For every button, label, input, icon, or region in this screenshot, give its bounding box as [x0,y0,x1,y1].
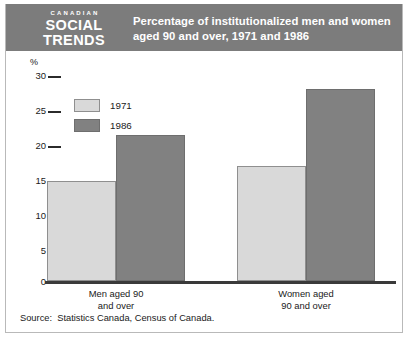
x-axis-baseline [45,281,396,284]
plot-area: % 30 25 20 15 10 5 0 [6,51,402,302]
bar-women-1986 [306,89,375,281]
category-label-men-line1: Men aged 90 [51,288,181,300]
category-label-men: Men aged 90 and over [51,288,181,311]
bar-men-1971 [47,181,116,281]
bar-men-1986 [116,135,185,281]
category-label-women: Women aged 90 and over [241,288,371,311]
chart-title: Percentage of institutionalized men and … [133,14,398,43]
category-label-women-line2: 90 and over [241,300,371,312]
chart-header-band: CANADIAN SOCIAL TRENDS Percentage of ins… [6,4,402,51]
category-label-men-line2: and over [51,300,181,312]
bars-layer [6,51,402,281]
chart-figure: CANADIAN SOCIAL TRENDS Percentage of ins… [0,0,408,337]
logo-line-social: SOCIAL [27,18,121,33]
publication-logo: CANADIAN SOCIAL TRENDS [27,9,121,48]
category-label-women-line1: Women aged [241,288,371,300]
logo-line-trends: TRENDS [27,33,121,48]
bar-women-1971 [237,166,306,281]
frame-bottom-border [5,332,403,333]
frame-right-border [402,4,403,333]
source-note: Source: Statistics Canada, Census of Can… [20,313,214,323]
